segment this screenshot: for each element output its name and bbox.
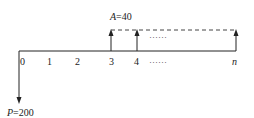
tick-label-1: 1 (47, 56, 52, 67)
tick-label-0: 0 (20, 56, 25, 67)
tick-label-4: 4 (134, 56, 139, 67)
arrow-down-icon (17, 97, 22, 104)
inflow-arrow-n (234, 29, 239, 51)
inflow-arrow-4 (135, 29, 140, 51)
cash-flow-diagram: A=40 …… 0 1 2 3 4 …… n P=200 (0, 0, 254, 118)
inflow-ellipsis: …… (149, 30, 167, 40)
tick-label-2: 2 (75, 56, 80, 67)
tick-label-3: 3 (109, 56, 114, 67)
axis-ellipsis: …… (149, 55, 167, 65)
outflow-label: P=200 (6, 107, 34, 118)
tick-label-n: n (232, 56, 237, 67)
inflow-arrow-3 (109, 29, 114, 51)
arrow-up-icon (234, 29, 239, 36)
annuity-label: A=40 (109, 11, 132, 22)
